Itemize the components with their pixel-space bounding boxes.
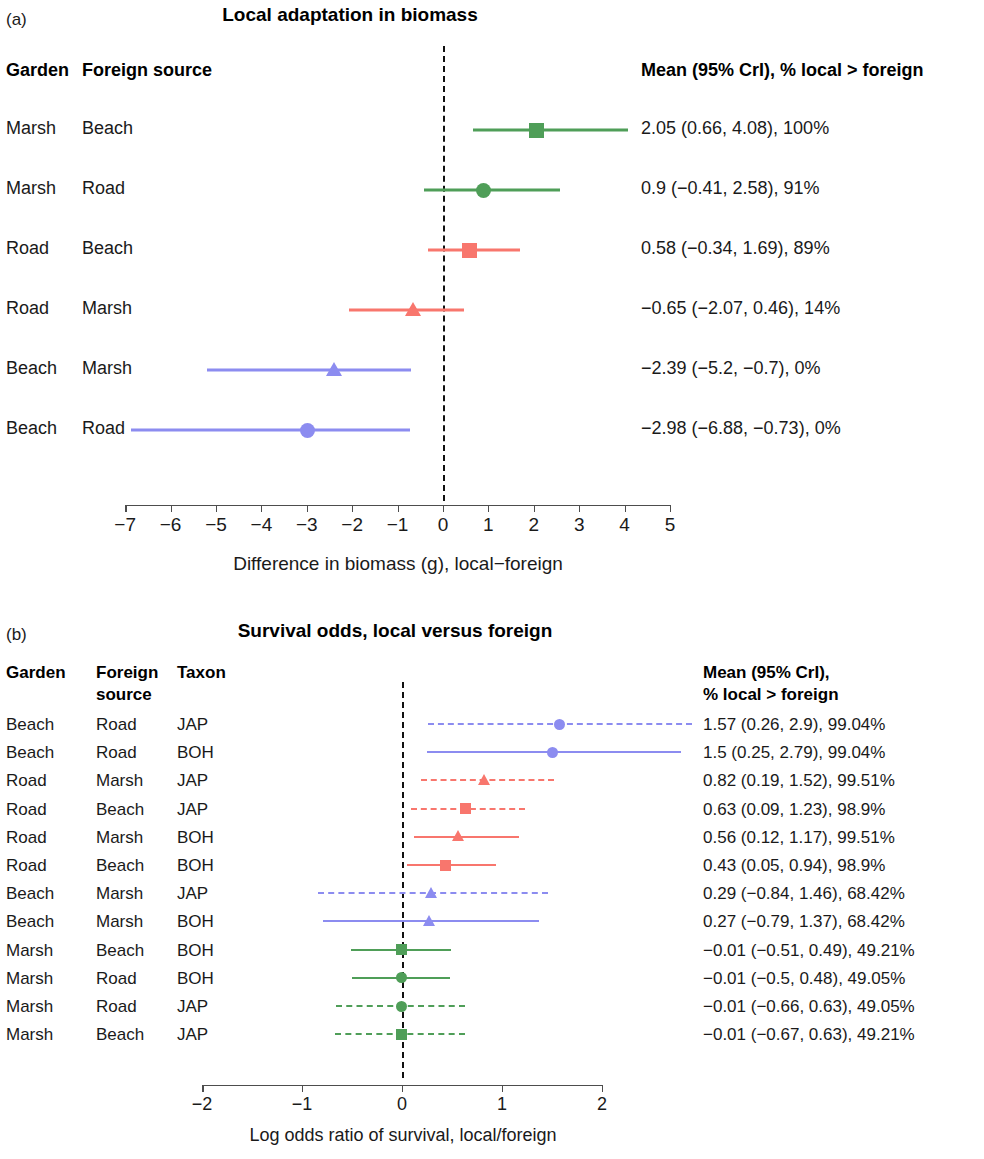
panel-b-x-axis	[203, 1085, 603, 1086]
panel-b-row: RoadBeachBOH0.43 (0.05, 0.94), 98.9%	[0, 851, 984, 879]
panel-b-x-axis-label: Log odds ratio of survival, local/foreig…	[0, 1125, 806, 1146]
x-tick-label: −1	[282, 1094, 322, 1115]
panel-b-cell-foreign-source: Beach	[96, 856, 144, 876]
panel-b-cell-taxon: JAP	[177, 800, 208, 820]
x-tick	[352, 505, 353, 512]
x-tick	[261, 505, 262, 512]
panel-b-cell-stats: −0.01 (−0.5, 0.48), 49.05%	[703, 969, 905, 989]
panel-b-cell-garden: Marsh	[6, 997, 53, 1017]
panel-b-row: MarshBeachBOH−0.01 (−0.51, 0.49), 49.21%	[0, 936, 984, 964]
panel-b-cell-garden: Road	[6, 828, 47, 848]
panel-b-cell-stats: 0.56 (0.12, 1.17), 99.51%	[703, 828, 895, 848]
credible-interval-line	[424, 189, 560, 192]
panel-b-survival: (b) Survival odds, local versus foreign …	[0, 600, 984, 1159]
panel-b-row: BeachRoadJAP1.57 (0.26, 2.9), 99.04%	[0, 710, 984, 738]
x-tick	[502, 1085, 503, 1092]
panel-b-cell-taxon: BOH	[177, 856, 214, 876]
point-marker-square	[460, 803, 471, 814]
x-tick-label: −4	[241, 514, 281, 536]
panel-a-row: MarshBeach2.05 (0.66, 4.08), 100%	[0, 100, 984, 160]
point-marker-square	[440, 860, 451, 871]
panel-b-cell-foreign-source: Marsh	[96, 912, 143, 932]
panel-b-cell-foreign-source: Road	[96, 743, 137, 763]
panel-b-row: RoadMarshJAP0.82 (0.19, 1.52), 99.51%	[0, 766, 984, 794]
panel-a-header-foreign-source: Foreign source	[82, 60, 212, 81]
x-tick	[171, 505, 172, 512]
x-tick-label: 4	[605, 514, 645, 536]
panel-a-cell-stats: 0.9 (−0.41, 2.58), 91%	[641, 178, 820, 199]
panel-b-header-stats-line2: % local > foreign	[703, 685, 839, 705]
x-tick	[202, 1085, 203, 1092]
point-marker-square	[529, 123, 544, 138]
panel-a-cell-garden: Road	[6, 238, 49, 259]
panel-a-cell-stats: 2.05 (0.66, 4.08), 100%	[641, 118, 829, 139]
panel-b-cell-foreign-source: Marsh	[96, 884, 143, 904]
panel-a-cell-foreign-source: Beach	[82, 238, 133, 259]
panel-a-cell-garden: Beach	[6, 418, 57, 439]
panel-b-cell-garden: Beach	[6, 884, 54, 904]
panel-b-cell-taxon: JAP	[177, 771, 208, 791]
panel-a-cell-stats: −2.98 (−6.88, −0.73), 0%	[641, 418, 841, 439]
x-tick-label: 1	[468, 514, 508, 536]
x-tick	[307, 505, 308, 512]
x-tick-label: 2	[514, 514, 554, 536]
panel-a-header-garden: Garden	[6, 60, 69, 81]
panel-b-row: MarshRoadBOH−0.01 (−0.5, 0.48), 49.05%	[0, 964, 984, 992]
x-tick	[670, 505, 671, 512]
panel-b-cell-stats: 0.29 (−0.84, 1.46), 68.42%	[703, 884, 905, 904]
point-marker-triangle	[478, 774, 490, 785]
x-tick-label: −2	[182, 1094, 222, 1115]
panel-b-cell-stats: 1.5 (0.25, 2.79), 99.04%	[703, 743, 885, 763]
panel-b-row: BeachRoadBOH1.5 (0.25, 2.79), 99.04%	[0, 738, 984, 766]
panel-b-cell-foreign-source: Beach	[96, 800, 144, 820]
point-marker-circle	[554, 719, 565, 730]
panel-b-cell-foreign-source: Road	[96, 715, 137, 735]
panel-a-row: RoadBeach0.58 (−0.34, 1.69), 89%	[0, 220, 984, 280]
panel-a-title: Local adaptation in biomass	[0, 4, 700, 26]
panel-b-cell-foreign-source: Road	[96, 969, 137, 989]
point-marker-circle	[396, 1001, 407, 1012]
panel-b-cell-garden: Marsh	[6, 969, 53, 989]
panel-b-cell-stats: 0.63 (0.09, 1.23), 98.9%	[703, 800, 885, 820]
panel-a-cell-garden: Beach	[6, 358, 57, 379]
panel-b-row: RoadMarshBOH0.56 (0.12, 1.17), 99.51%	[0, 823, 984, 851]
point-marker-circle	[547, 747, 558, 758]
credible-interval-line	[407, 864, 496, 866]
panel-a-cell-stats: 0.58 (−0.34, 1.69), 89%	[641, 238, 830, 259]
panel-b-cell-foreign-source: Beach	[96, 1025, 144, 1045]
panel-a-cell-foreign-source: Road	[82, 418, 125, 439]
x-tick	[398, 505, 399, 512]
panel-a-biomass: (a) Local adaptation in biomass Garden F…	[0, 0, 984, 600]
x-tick-label: 5	[650, 514, 690, 536]
x-tick-label: −1	[378, 514, 418, 536]
point-marker-triangle	[423, 915, 435, 926]
panel-b-row: MarshBeachJAP−0.01 (−0.67, 0.63), 49.21%	[0, 1020, 984, 1048]
point-marker-triangle	[405, 302, 421, 316]
panel-a-cell-foreign-source: Marsh	[82, 298, 132, 319]
x-tick-label: −2	[332, 514, 372, 536]
point-marker-circle	[396, 972, 407, 983]
x-tick	[302, 1085, 303, 1092]
panel-b-cell-garden: Road	[6, 856, 47, 876]
panel-b-cell-taxon: JAP	[177, 715, 208, 735]
panel-b-header-source: source	[96, 685, 152, 705]
panel-b-cell-garden: Beach	[6, 743, 54, 763]
x-tick	[216, 505, 217, 512]
panel-b-header-garden: Garden	[6, 663, 66, 683]
panel-a-row: MarshRoad0.9 (−0.41, 2.58), 91%	[0, 160, 984, 220]
panel-b-header-foreign: Foreign	[96, 663, 158, 683]
panel-a-x-axis-label: Difference in biomass (g), local−foreign	[0, 553, 796, 575]
x-tick-label: 1	[482, 1094, 522, 1115]
credible-interval-line	[131, 429, 410, 432]
panel-a-cell-garden: Road	[6, 298, 49, 319]
panel-b-cell-garden: Road	[6, 771, 47, 791]
x-tick	[125, 505, 126, 512]
panel-a-row: BeachRoad−2.98 (−6.88, −0.73), 0%	[0, 400, 984, 460]
panel-b-cell-garden: Beach	[6, 715, 54, 735]
x-tick-label: 0	[423, 514, 463, 536]
x-tick-label: −6	[151, 514, 191, 536]
panel-b-row: BeachMarshBOH0.27 (−0.79, 1.37), 68.42%	[0, 907, 984, 935]
x-tick	[579, 505, 580, 512]
point-marker-triangle	[326, 362, 342, 376]
panel-a-row: RoadMarsh−0.65 (−2.07, 0.46), 14%	[0, 280, 984, 340]
